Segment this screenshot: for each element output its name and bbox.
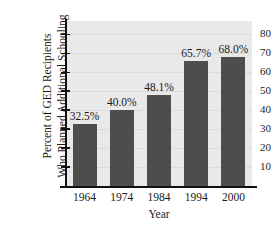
bar-value-label: 32.5% (63, 110, 107, 122)
y-axis-tick (61, 53, 70, 55)
y-axis-tick (61, 90, 70, 92)
y-axis-tick-label: 40 (227, 104, 271, 115)
y-axis-title-line-1: Percent of GED Recipients (40, 6, 55, 186)
y-axis-tick-label: 10 (227, 161, 271, 172)
y-axis-tick-label: 60 (227, 66, 271, 77)
bar (110, 110, 134, 186)
bar-chart-figure: Percent of GED Recipients Who Planned Ad… (0, 0, 271, 229)
y-axis-tick-label: 50 (227, 85, 271, 96)
x-axis-line (60, 186, 257, 188)
y-axis-tick-label: 30 (227, 123, 271, 134)
y-axis-tick (61, 34, 70, 36)
y-axis-title: Percent of GED Recipients Who Planned Ad… (0, 0, 46, 190)
y-axis-tick (61, 128, 70, 130)
y-axis-tick (61, 166, 70, 168)
x-axis-title: Year (66, 208, 252, 221)
y-axis-tick-label: 20 (227, 142, 271, 153)
x-axis-tick-label: 2000 (211, 191, 255, 204)
bar-value-label: 68.0% (211, 43, 255, 55)
bar-value-label: 48.1% (137, 81, 181, 93)
bar (73, 124, 97, 186)
bar (147, 95, 171, 186)
bar (184, 61, 208, 186)
bar-value-label: 40.0% (100, 96, 144, 108)
gridline (66, 34, 252, 35)
y-axis-line (65, 19, 67, 187)
y-axis-tick-label: 80 (227, 28, 271, 39)
y-axis-tick (61, 72, 70, 74)
y-axis-tick (61, 147, 70, 149)
